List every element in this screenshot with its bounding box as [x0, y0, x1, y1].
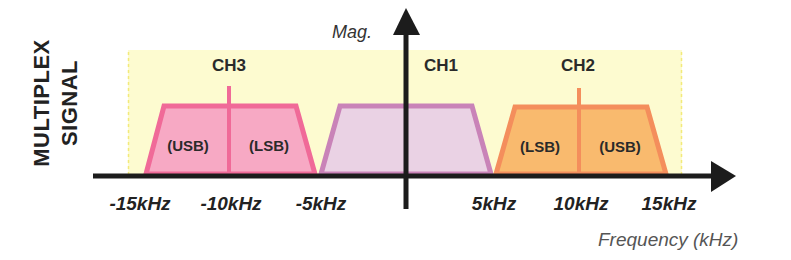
tick-label-neg15: -15kHz: [109, 193, 171, 214]
ch3-right-band: (LSB): [249, 137, 289, 154]
x-axis-label: Frequency (kHz): [598, 229, 738, 250]
tick-label-5: 5kHz: [472, 193, 517, 214]
side-label: MULTIPLEX: [29, 39, 54, 167]
y-axis-label: Mag.: [332, 22, 372, 42]
ch2-left-band: (LSB): [520, 138, 560, 155]
ch2-label: CH2: [561, 56, 595, 75]
side-label-2: SIGNAL: [57, 60, 82, 146]
tick-label-15: 15kHz: [642, 193, 697, 214]
side-label-line1: MULTIPLEX: [29, 39, 54, 167]
side-label-line2: SIGNAL: [57, 60, 82, 146]
tick-label-neg10: -10kHz: [200, 193, 262, 214]
ch1-label: CH1: [424, 56, 458, 75]
y-axis-arrowhead-icon: [393, 8, 420, 35]
x-axis-arrowhead-icon: [711, 161, 736, 192]
tick-label-neg5: -5kHz: [296, 193, 347, 214]
ch3-label: CH3: [212, 56, 246, 75]
tick-label-10: 10kHz: [554, 193, 609, 214]
ch3-left-band: (USB): [167, 137, 209, 154]
ch2-right-band: (USB): [599, 138, 641, 155]
multiplex-spectrum-diagram: CH3 (USB) (LSB) CH1 CH2 (LSB) (USB) Mag.…: [0, 0, 791, 260]
